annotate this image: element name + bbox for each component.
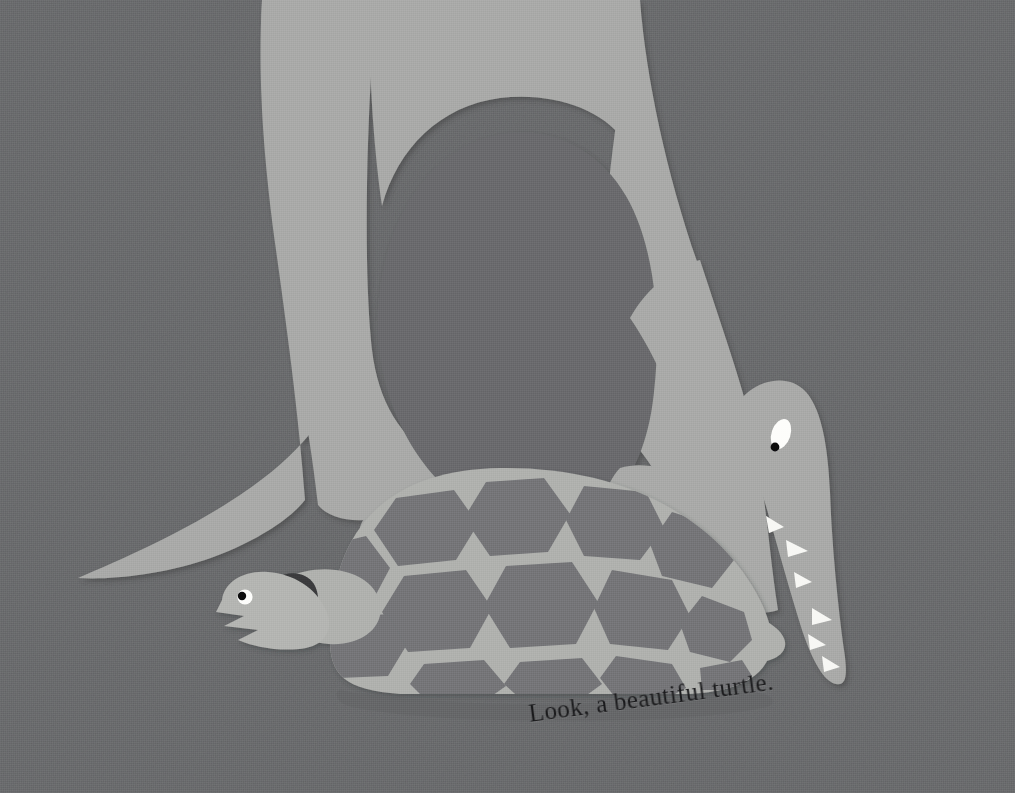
turtle-eye: [237, 589, 252, 604]
scene-artwork: [0, 0, 1015, 793]
illustration-page: Look, a beautiful turtle.: [0, 0, 1015, 793]
